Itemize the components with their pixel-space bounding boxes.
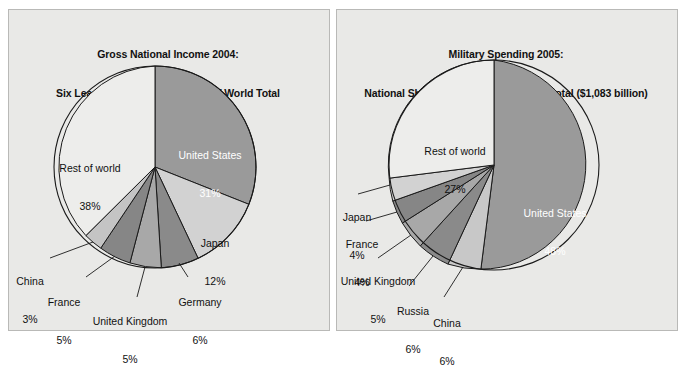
right-label-united-states-name: United States	[500, 207, 610, 220]
leader-china	[50, 242, 93, 258]
left-label-china: China 3%	[8, 250, 52, 350]
left-label-united-states: United States 31%	[160, 124, 260, 224]
right-label-rest-of-world-name: Rest of world	[405, 145, 505, 158]
right-label-united-states: United States 48%	[500, 182, 610, 282]
right-label-france-name: France	[336, 238, 388, 251]
left-label-united-kingdom-value: 5%	[78, 353, 182, 366]
left-label-rest-of-world-value: 38%	[38, 200, 142, 213]
left-label-united-states-value: 31%	[160, 187, 260, 200]
right-label-united-states-value: 48%	[500, 245, 610, 258]
left-label-japan-name: Japan	[185, 237, 245, 250]
left-label-china-name: China	[8, 275, 52, 288]
right-label-china-value: 6%	[422, 355, 472, 368]
left-label-rest-of-world-name: Rest of world	[38, 162, 142, 175]
left-label-rest-of-world: Rest of world 38%	[38, 137, 142, 237]
right-label-rest-of-world-value: 27%	[405, 183, 505, 196]
left-label-united-states-name: United States	[160, 149, 260, 162]
right-label-china-name: China	[422, 317, 472, 330]
left-label-united-kingdom: United Kingdom 5%	[78, 290, 182, 369]
left-label-china-value: 3%	[8, 313, 52, 326]
right-label-rest-of-world: Rest of world 27%	[405, 120, 505, 220]
left-label-united-kingdom-name: United Kingdom	[78, 315, 182, 328]
right-label-china: China 6%	[422, 292, 472, 369]
leader-france	[86, 256, 115, 277]
